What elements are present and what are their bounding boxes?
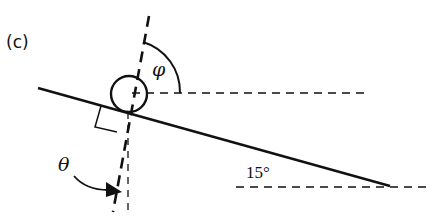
incline-line: [38, 88, 390, 186]
theta-label: θ: [58, 153, 70, 175]
panel-label: (c): [6, 32, 29, 52]
tilted-axis-dashed: [113, 16, 149, 212]
wheel-circle: [111, 76, 147, 112]
arrowhead-icon: [106, 182, 122, 197]
inclined-plane-diagram: (c) 15° φ θ: [0, 0, 430, 222]
incline-angle-label: 15°: [246, 163, 270, 182]
phi-label: φ: [152, 58, 166, 80]
theta-rotation-arrow: [74, 176, 108, 190]
